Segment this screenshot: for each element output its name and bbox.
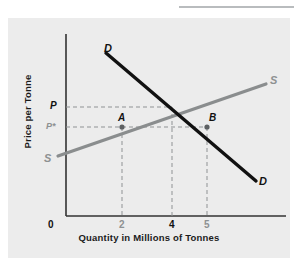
- demand-label-bottom: D: [259, 175, 267, 187]
- top-divider-rule: [179, 6, 294, 8]
- point-label-a: A: [118, 112, 125, 123]
- data-point-a: [119, 124, 124, 129]
- supply-label-top: S: [270, 74, 277, 86]
- y-tick-label-p: P: [50, 100, 57, 111]
- point-label-b: B: [209, 112, 216, 123]
- x-tick-label-5: 5: [204, 219, 210, 230]
- x-tick-label-0: 0: [48, 219, 54, 230]
- x-tick-label-4: 4: [169, 219, 175, 230]
- x-tick-label-2: 2: [119, 219, 125, 230]
- demand-curve: [106, 53, 256, 181]
- supply-label-bottom: S: [44, 152, 51, 164]
- y-tick-label-p-star: P*: [46, 121, 56, 131]
- supply-curve: [58, 84, 266, 156]
- chart-panel: Price per Tonne Quantity in Millions of …: [8, 18, 290, 258]
- data-point-b: [204, 124, 209, 129]
- demand-label-top: D: [104, 42, 112, 54]
